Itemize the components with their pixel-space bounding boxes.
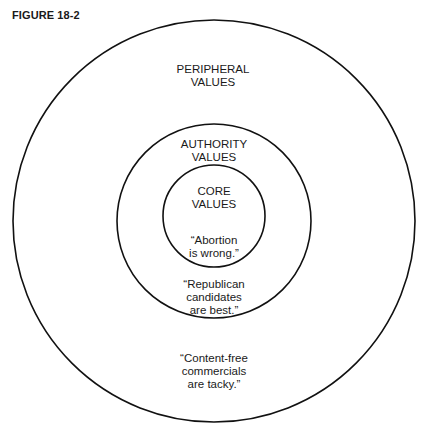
authority-values-title: AUTHORITY VALUES bbox=[181, 138, 247, 164]
peripheral-values-title: PERIPHERAL VALUES bbox=[177, 63, 250, 89]
authority-values-example: “Republican candidates are best.” bbox=[183, 278, 244, 317]
core-values-example: “Abortion is wrong.” bbox=[189, 234, 239, 260]
core-values-title: CORE VALUES bbox=[192, 185, 237, 211]
peripheral-values-example: “Content-free commercials are tacky.” bbox=[180, 352, 248, 391]
